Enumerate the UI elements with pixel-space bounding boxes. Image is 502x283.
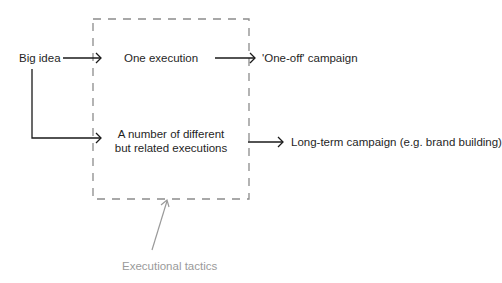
- annotation-executional-tactics: Executional tactics: [122, 259, 217, 273]
- node-multiple-executions-line2: but related executions: [111, 141, 231, 155]
- executional-tactics-box: [93, 19, 249, 199]
- node-big-idea: Big idea: [19, 51, 61, 65]
- node-one-off-campaign: 'One-off' campaign: [262, 51, 358, 65]
- arrow-big-idea-to-multiple-executions: [32, 69, 101, 143]
- arrow-executional-tactics-to-box: [152, 200, 169, 250]
- node-long-term-campaign: Long-term campaign (e.g. brand building): [291, 135, 502, 149]
- arrow-big-idea-to-one-execution: [63, 53, 101, 63]
- arrow-multiple-executions-to-long-term-campaign: [248, 137, 283, 147]
- node-multiple-executions: A number of different but related execut…: [111, 127, 231, 155]
- node-multiple-executions-line1: A number of different: [111, 127, 231, 141]
- node-one-execution: One execution: [124, 51, 198, 65]
